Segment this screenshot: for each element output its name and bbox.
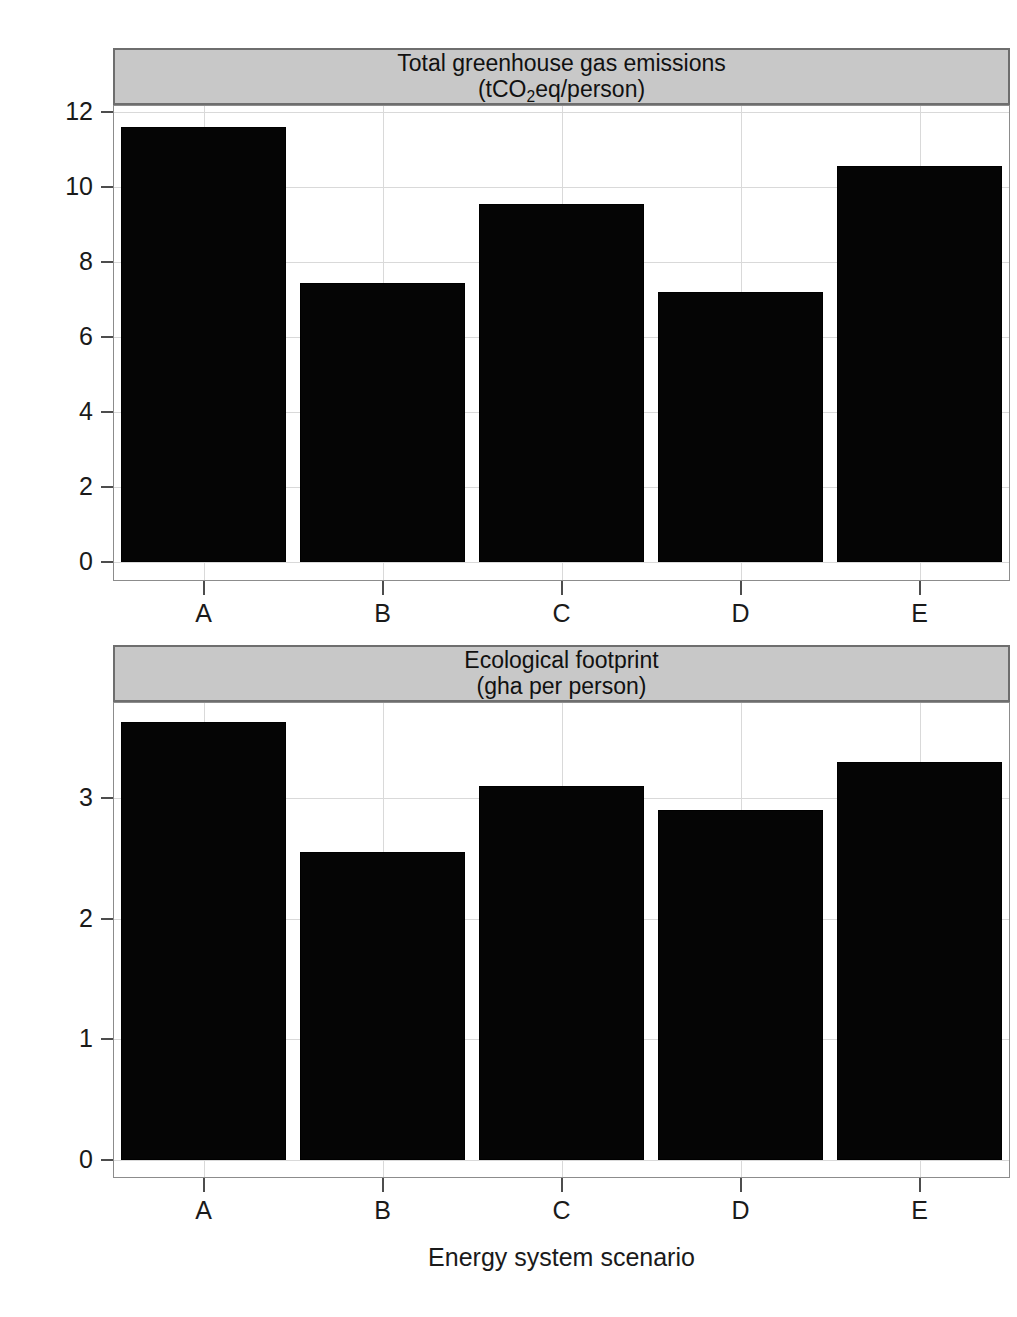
y-axis-tick-mark [101, 111, 113, 113]
x-axis-tick-mark [740, 581, 742, 595]
panel-title-top-subscript: 2 [526, 88, 535, 105]
bar [300, 852, 466, 1159]
y-axis-tick-mark [101, 486, 113, 488]
y-axis-tick-label: 12 [47, 97, 93, 126]
x-axis-tick-label: C [542, 599, 582, 628]
plot-area-bottom [113, 702, 1010, 1178]
bar [300, 283, 466, 563]
bar [479, 786, 645, 1159]
y-axis-tick-label: 0 [47, 1145, 93, 1174]
x-axis-tick-label: D [721, 599, 761, 628]
panel-title-top-line2-prefix: (tCO [478, 76, 527, 102]
x-axis-tick-label: A [184, 1196, 224, 1225]
panel-total-greenhouse-gas-emissions: Total greenhouse gas emissions (tCO2eq/p… [113, 48, 1010, 593]
plot-area-top [113, 105, 1010, 581]
bar [658, 292, 824, 562]
x-axis-tick-mark [919, 581, 921, 595]
x-axis-tick-label: B [363, 1196, 403, 1225]
y-axis-label: Value [0, 0, 34, 1317]
panel-title-top: Total greenhouse gas emissions (tCO2eq/p… [397, 50, 726, 103]
panel-ecological-footprint: Ecological footprint (gha per person) [113, 645, 1010, 1180]
x-axis-tick-mark [203, 1178, 205, 1192]
x-axis-tick-label: E [900, 599, 940, 628]
bar [837, 166, 1003, 562]
y-axis-tick-label: 3 [47, 783, 93, 812]
y-axis-tick-label: 4 [47, 397, 93, 426]
x-axis-tick-label: B [363, 599, 403, 628]
y-axis-tick-mark [101, 561, 113, 563]
x-axis-label: Energy system scenario [113, 1243, 1010, 1272]
panel-strip-header-top: Total greenhouse gas emissions (tCO2eq/p… [113, 48, 1010, 105]
x-axis-tick-mark [203, 581, 205, 595]
x-axis-tick-label: A [184, 599, 224, 628]
panel-title-bottom-line2: (gha per person) [464, 674, 658, 700]
x-axis-tick-mark [382, 1178, 384, 1192]
y-axis-tick-mark [101, 918, 113, 920]
y-axis-tick-mark [101, 261, 113, 263]
y-axis-tick-mark [101, 1159, 113, 1161]
y-axis-tick-mark [101, 186, 113, 188]
panel-title-bottom: Ecological footprint (gha per person) [464, 647, 658, 700]
x-axis-tick-mark [561, 581, 563, 595]
y-axis-tick-label: 0 [47, 547, 93, 576]
y-axis-tick-label: 10 [47, 172, 93, 201]
panel-title-top-line2: (tCO2eq/person) [397, 77, 726, 103]
bar [837, 762, 1003, 1160]
x-axis-tick-label: E [900, 1196, 940, 1225]
y-axis-tick-label: 2 [47, 904, 93, 933]
panel-title-top-line2-suffix: eq/person) [535, 76, 645, 102]
bar-chart-figure: Value Total greenhouse gas emissions (tC… [0, 0, 1017, 1317]
y-axis-tick-label: 6 [47, 322, 93, 351]
x-axis-tick-mark [740, 1178, 742, 1192]
panel-strip-header-bottom: Ecological footprint (gha per person) [113, 645, 1010, 702]
x-axis-tick-mark [561, 1178, 563, 1192]
y-axis-tick-mark [101, 336, 113, 338]
y-axis-tick-mark [101, 1038, 113, 1040]
y-axis-tick-label: 8 [47, 247, 93, 276]
panel-title-top-line1: Total greenhouse gas emissions [397, 50, 726, 76]
x-axis-tick-label: C [542, 1196, 582, 1225]
panel-title-bottom-line1: Ecological footprint [464, 647, 658, 673]
y-axis-tick-mark [101, 797, 113, 799]
bar [121, 127, 287, 563]
y-axis-tick-label: 2 [47, 472, 93, 501]
bar [658, 810, 824, 1159]
y-axis-tick-label: 1 [47, 1024, 93, 1053]
x-axis-tick-label: D [721, 1196, 761, 1225]
bar [121, 722, 287, 1159]
x-axis-tick-mark [382, 581, 384, 595]
y-axis-tick-mark [101, 411, 113, 413]
x-axis-tick-mark [919, 1178, 921, 1192]
bar [479, 204, 645, 563]
